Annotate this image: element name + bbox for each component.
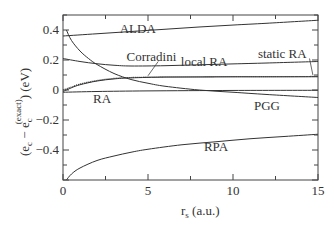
y-tick-label: −0.2 bbox=[35, 112, 59, 127]
label-ra: RA bbox=[93, 91, 112, 106]
curve-corradini bbox=[63, 77, 318, 91]
label-rpa: RPA bbox=[204, 139, 229, 154]
y-tick-label: 0 bbox=[53, 82, 60, 97]
y-axis-title: (ec − ec(exact)) (eV) bbox=[13, 68, 34, 156]
y-tick-label: 0.4 bbox=[43, 22, 60, 37]
chart: 051015 0.40.20−0.2−0.4 ALDACorradiniloca… bbox=[0, 0, 334, 227]
x-tick-label: 15 bbox=[312, 183, 325, 198]
x-tick-label: 0 bbox=[60, 183, 67, 198]
svg-text:(ec − ec(exact)) (eV): (ec − ec(exact)) (eV) bbox=[13, 68, 34, 156]
curve-rpa bbox=[66, 134, 318, 180]
label-corradini: Corradini bbox=[126, 49, 176, 64]
y-tick-label: 0.2 bbox=[43, 52, 59, 67]
x-axis-title: rs (a.u.) bbox=[181, 203, 220, 220]
static-ra-leader bbox=[310, 59, 313, 76]
x-tick-label: 10 bbox=[227, 183, 240, 198]
label-alda: ALDA bbox=[120, 21, 157, 36]
label-local-ra: local RA bbox=[181, 54, 228, 69]
label-pgg: PGG bbox=[254, 98, 280, 113]
x-tick-label: 5 bbox=[145, 183, 152, 198]
curve-alda bbox=[63, 20, 318, 36]
x-ticks: 051015 bbox=[60, 15, 325, 198]
curve-labels: ALDACorradinilocal RAstatic RARAPGGRPA bbox=[93, 21, 307, 155]
y-tick-label: −0.4 bbox=[35, 142, 59, 157]
label-static-ra: static RA bbox=[258, 46, 307, 61]
